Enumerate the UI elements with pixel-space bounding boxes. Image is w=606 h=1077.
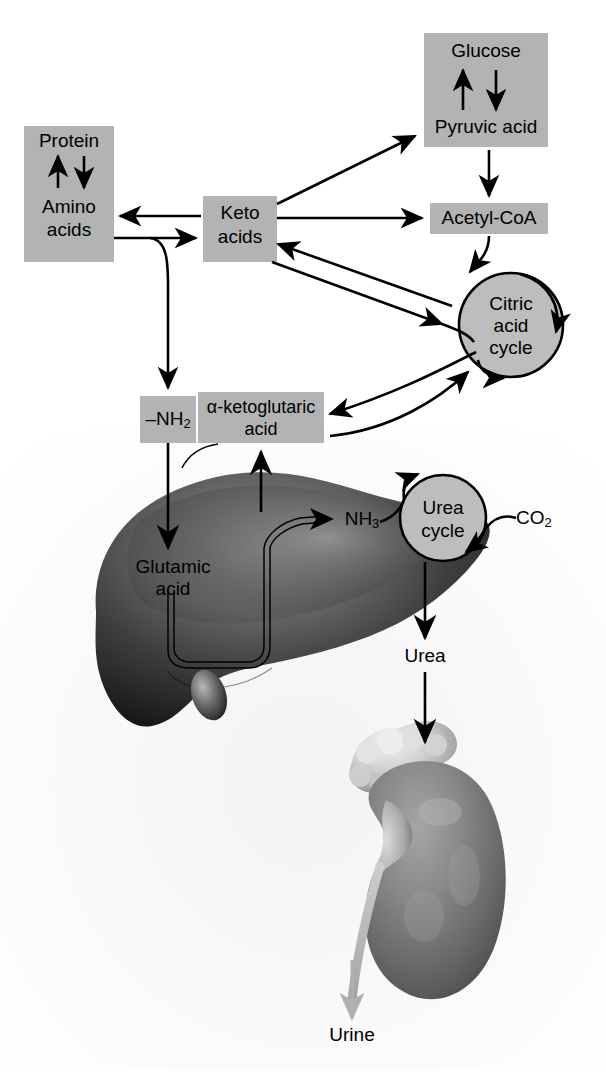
metabolism-diagram: Protein Amino acids Keto acids Glucose P… <box>0 0 606 1077</box>
arrow-glutamic-to-nh3-head <box>310 508 334 530</box>
arrow-keto-to-pyruvic <box>277 136 415 204</box>
protein-amino-acids-box <box>24 126 114 262</box>
arrow-amino-to-nh2 <box>150 238 168 388</box>
nh2-alphaketo-connector <box>182 444 218 468</box>
acetyl-coa-box <box>430 203 548 234</box>
urea-cycle-circle <box>400 475 486 561</box>
glutamic-channel-inner <box>174 548 264 662</box>
arrow-acetyl-coa-to-citric <box>470 236 489 272</box>
glutamic-channel-outer <box>168 548 270 668</box>
flow-arrow-layer <box>0 0 606 1077</box>
arrow-alpha-ketoglutaric-to-citric <box>330 372 468 436</box>
glucose-pyruvic-acid-box <box>424 33 548 147</box>
nh2-box <box>140 396 196 443</box>
alpha-ketoglutaric-acid-box <box>198 392 324 443</box>
citric-acid-cycle-circle <box>459 273 563 377</box>
keto-acids-box <box>203 196 277 262</box>
co2-to-urea-link <box>486 516 516 528</box>
